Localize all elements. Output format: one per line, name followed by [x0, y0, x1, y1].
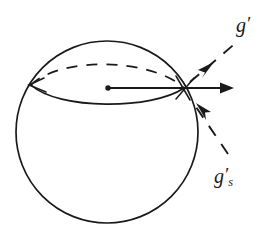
sphere-circle [16, 41, 198, 223]
gs-prime-label: g′s [214, 165, 233, 188]
g-prime-label-prime: ′ [246, 13, 250, 34]
figure-container: g′ g′s [0, 0, 278, 240]
g-prime-vector-shaft [190, 41, 238, 82]
gs-prime-label-base: g [214, 165, 224, 187]
horizontal-vector-arrowhead [220, 83, 234, 94]
g-prime-label-base: g [236, 14, 246, 36]
gs-prime-label-subscript: s [228, 175, 233, 189]
sphere-vector-diagram [0, 0, 278, 240]
g-prime-vector-arrowhead [198, 62, 214, 78]
gs-prime-vector-shaft [194, 104, 228, 154]
equator-back-arc [31, 64, 184, 88]
g-prime-label: g′ [236, 14, 250, 35]
